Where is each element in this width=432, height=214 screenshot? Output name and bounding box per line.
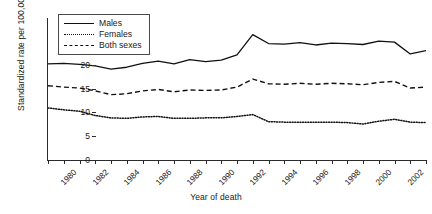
- x-tick-mark: [95, 160, 96, 164]
- x-tick-mark: [127, 160, 128, 164]
- legend-label: Females: [99, 29, 132, 40]
- x-tick-mark: [395, 160, 396, 164]
- x-tick-label: 1986: [153, 167, 173, 187]
- x-tick-label: 1980: [58, 167, 78, 187]
- x-tick-label: 2000: [373, 167, 393, 187]
- x-tick-label: 1982: [90, 167, 110, 187]
- y-tick-label: 10: [50, 107, 90, 117]
- x-tick-mark: [80, 160, 81, 164]
- x-tick-label: 1996: [310, 167, 330, 187]
- legend-key-dotted-icon: [64, 30, 94, 39]
- x-tick-mark: [316, 160, 317, 164]
- x-tick-mark: [221, 160, 222, 164]
- x-tick-mark: [206, 160, 207, 164]
- x-tick-label: 1984: [121, 167, 141, 187]
- series-line-females: [48, 108, 426, 124]
- x-tick-mark: [237, 160, 238, 164]
- legend-label: Males: [99, 18, 122, 29]
- x-tick-label: 1998: [342, 167, 362, 187]
- line-chart: Standardized rate per 100,000 Year of de…: [0, 0, 432, 214]
- chart-legend: Males Females Both sexes: [58, 14, 150, 55]
- x-tick-label: 1988: [184, 167, 204, 187]
- legend-item-females: Females: [64, 29, 142, 40]
- y-tick-mark: [92, 136, 96, 137]
- y-tick-mark: [92, 65, 96, 66]
- x-tick-mark: [426, 160, 427, 164]
- x-tick-mark: [48, 160, 49, 164]
- x-axis-ticks: 1980198219841986198819901992199419961998…: [48, 160, 426, 190]
- x-tick-mark: [174, 160, 175, 164]
- x-tick-mark: [190, 160, 191, 164]
- x-tick-mark: [363, 160, 364, 164]
- x-tick-label: 2002: [405, 167, 425, 187]
- legend-key-solid-icon: [64, 19, 94, 28]
- legend-item-males: Males: [64, 18, 142, 29]
- x-tick-mark: [284, 160, 285, 164]
- x-tick-mark: [269, 160, 270, 164]
- x-tick-mark: [111, 160, 112, 164]
- x-tick-mark: [300, 160, 301, 164]
- legend-label: Both sexes: [99, 40, 142, 51]
- x-tick-mark: [253, 160, 254, 164]
- y-tick-mark: [92, 112, 96, 113]
- legend-key-dashed-icon: [64, 41, 94, 50]
- series-line-both-sexes: [48, 79, 426, 95]
- x-tick-mark: [347, 160, 348, 164]
- x-tick-mark: [64, 160, 65, 164]
- y-axis-title: Standardized rate per 100,000: [16, 0, 26, 127]
- x-tick-label: 1992: [247, 167, 267, 187]
- x-tick-label: 1994: [279, 167, 299, 187]
- y-tick-label: 20: [50, 60, 90, 70]
- x-tick-label: 1990: [216, 167, 236, 187]
- x-tick-mark: [158, 160, 159, 164]
- legend-item-both-sexes: Both sexes: [64, 40, 142, 51]
- x-tick-mark: [143, 160, 144, 164]
- x-tick-mark: [379, 160, 380, 164]
- y-tick-label: 15: [50, 84, 90, 94]
- y-tick-label: 5: [50, 131, 90, 141]
- x-tick-mark: [410, 160, 411, 164]
- x-tick-mark: [332, 160, 333, 164]
- y-tick-mark: [92, 89, 96, 90]
- x-axis-title: Year of death: [0, 192, 432, 202]
